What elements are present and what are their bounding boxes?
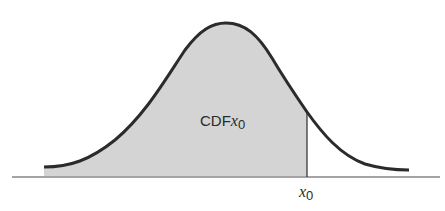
x0-axis-label: x0 <box>298 183 313 203</box>
normal-curve-diagram: CDFx0 x0 <box>0 0 445 211</box>
cdf-shaded-area <box>44 23 307 176</box>
